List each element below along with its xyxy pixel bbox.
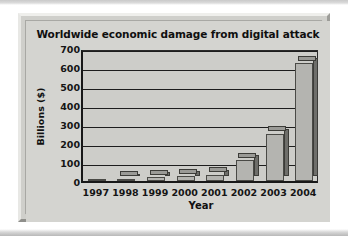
bar-front-face xyxy=(117,179,135,181)
gridline xyxy=(83,70,317,71)
y-axis-tick: 500 xyxy=(50,83,80,93)
x-axis-label: Year xyxy=(81,200,321,211)
bar xyxy=(295,58,313,181)
bar xyxy=(147,172,165,181)
bar-front-face xyxy=(177,176,195,181)
x-axis-tick: 2004 xyxy=(286,187,320,198)
bar-top-face xyxy=(120,171,138,176)
bar-front-face xyxy=(295,63,313,181)
bar xyxy=(117,174,135,181)
bar-top-face xyxy=(209,167,227,172)
bar xyxy=(177,171,195,181)
y-axis-tick: 600 xyxy=(50,64,80,74)
bar-front-face xyxy=(266,134,284,182)
bar-top-face xyxy=(268,126,286,131)
bar xyxy=(236,155,254,181)
chart-frame-inner: Worldwide economic damage from digital a… xyxy=(25,20,323,215)
bar-side-face xyxy=(254,155,259,176)
y-axis-tick: 300 xyxy=(50,121,80,131)
bar-top-face xyxy=(298,56,316,61)
scanned-chart-page: Worldwide economic damage from digital a… xyxy=(0,0,348,236)
scan-edge-bottom xyxy=(0,229,348,236)
gridline xyxy=(83,51,317,52)
scan-edge-top xyxy=(0,0,348,5)
bar xyxy=(88,175,106,181)
gridline xyxy=(83,108,317,109)
y-axis-tick: 200 xyxy=(50,140,80,150)
chart-title: Worldwide economic damage from digital a… xyxy=(26,28,330,40)
gridline xyxy=(83,89,317,90)
y-axis-tick: 0 xyxy=(50,178,80,188)
bar-side-face xyxy=(313,58,318,176)
y-axis-tick: 100 xyxy=(50,159,80,169)
bar-front-face xyxy=(88,179,106,181)
y-axis-tick: 700 xyxy=(50,45,80,55)
bar-side-face xyxy=(284,129,289,177)
chart-frame-bevel: Worldwide economic damage from digital a… xyxy=(18,13,330,222)
bar-top-face xyxy=(238,153,256,158)
bar-top-face xyxy=(150,170,168,175)
bar-front-face xyxy=(147,177,165,181)
bar-top-face xyxy=(179,169,197,174)
bar xyxy=(266,129,284,182)
plot-area xyxy=(81,50,318,183)
y-axis-label: Billions ($) xyxy=(35,67,46,167)
bar-chart: Worldwide economic damage from digital a… xyxy=(26,21,330,222)
bar-front-face xyxy=(236,160,254,181)
bar-front-face xyxy=(206,175,224,181)
y-axis-tick: 400 xyxy=(50,102,80,112)
bar xyxy=(206,170,224,181)
